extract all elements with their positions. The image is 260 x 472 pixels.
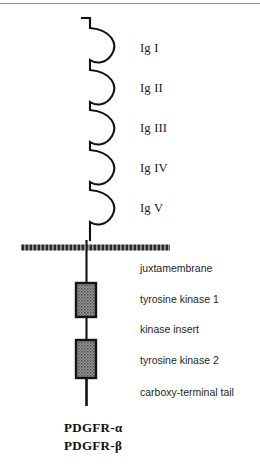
ig-label-4: Ig IV — [140, 161, 168, 175]
label-kinase-insert: kinase insert — [140, 323, 199, 335]
pdgfr-domain-diagram: Ig I Ig II Ig III Ig IV Ig V juxtamembra… — [0, 0, 260, 472]
ig-loop-chain — [82, 18, 114, 240]
plasma-membrane-bar — [21, 245, 170, 251]
ig-label-3: Ig III — [140, 121, 167, 135]
ig-label-1: Ig I — [140, 41, 159, 55]
receptor-name-beta: PDGFR-β — [64, 438, 122, 453]
ig-label-2: Ig II — [140, 81, 163, 95]
receptor-name-alpha: PDGFR-α — [64, 420, 123, 435]
label-tyrosine-kinase-1: tyrosine kinase 1 — [140, 293, 219, 305]
tyrosine-kinase-1-box — [76, 283, 96, 317]
tyrosine-kinase-2-box — [76, 340, 96, 378]
label-juxtamembrane: juxtamembrane — [139, 262, 213, 274]
label-tyrosine-kinase-2: tyrosine kinase 2 — [140, 354, 219, 366]
label-carboxy-terminal-tail: carboxy-terminal tail — [140, 386, 234, 398]
ig-label-5: Ig V — [140, 201, 163, 215]
figure-container: Ig I Ig II Ig III Ig IV Ig V juxtamembra… — [0, 0, 260, 472]
